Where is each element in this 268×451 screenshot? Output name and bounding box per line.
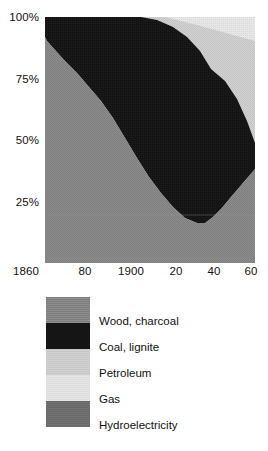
x-tick-label: 20: [170, 266, 183, 278]
x-tick-label: 40: [208, 266, 221, 278]
chart-legend: Wood, charcoal Coal, lignite Petroleum G…: [46, 297, 261, 427]
x-tick-label: 60: [245, 266, 258, 278]
x-axis: 1860 80 1900 20 40 60: [0, 266, 268, 288]
legend-swatch-hydroelectricity: [46, 401, 90, 427]
plot-svg: [45, 17, 255, 263]
legend-label-wood-charcoal: Wood, charcoal: [99, 316, 179, 328]
legend-label-hydroelectricity: Hydroelectricity: [99, 420, 178, 432]
legend-label-coal-lignite: Coal, lignite: [99, 342, 159, 354]
x-tick-label: 80: [79, 266, 92, 278]
legend-swatch-gas: [46, 375, 90, 401]
legend-swatch-strip: [46, 297, 90, 425]
x-tick-label: 1860: [13, 266, 39, 278]
stacked-area-chart-figure: 100% 75% 50% 25%: [0, 0, 268, 451]
y-tick-label: 25%: [16, 197, 39, 209]
legend-label-gas: Gas: [99, 394, 120, 406]
y-tick-label: 75%: [16, 74, 39, 86]
y-tick-label: 100%: [9, 12, 39, 24]
legend-swatch-petroleum: [46, 349, 90, 375]
y-axis: 100% 75% 50% 25%: [0, 0, 42, 290]
plot-area: [45, 17, 255, 263]
x-tick-label: 1900: [118, 266, 144, 278]
y-tick-label: 50%: [16, 135, 39, 147]
legend-swatch-coal-lignite: [46, 323, 90, 349]
legend-label-petroleum: Petroleum: [99, 368, 151, 380]
legend-swatch-wood-charcoal: [46, 297, 90, 323]
